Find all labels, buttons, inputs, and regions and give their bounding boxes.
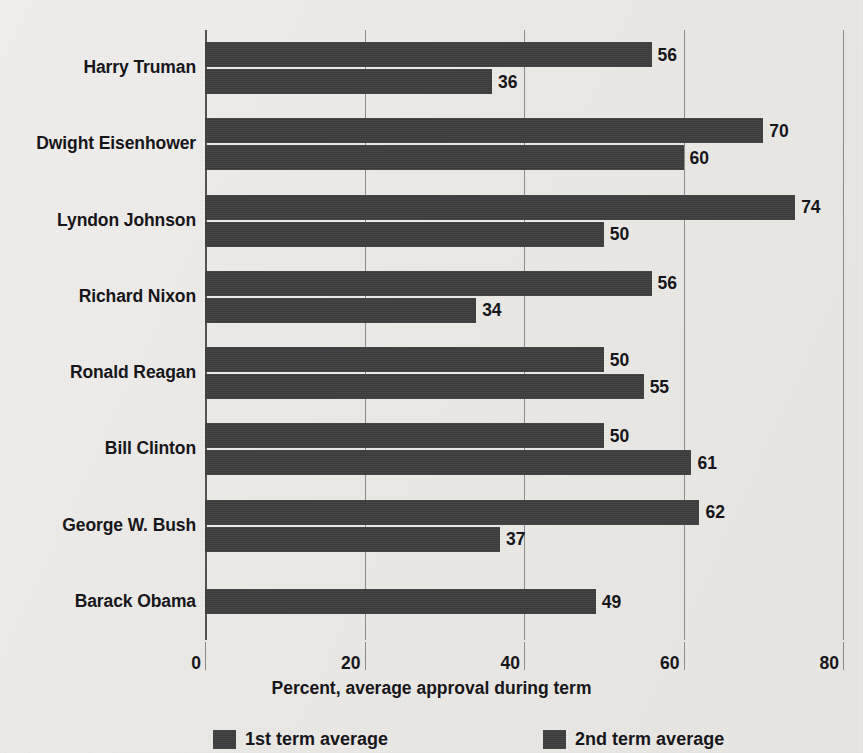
bar-group-item: 50 (205, 222, 863, 247)
bar-value-label: 36 (498, 71, 517, 92)
category-row: George W. Bush6237 (205, 488, 863, 564)
category-row: Harry Truman5636 (205, 30, 863, 106)
x-axis-tick-label: 60 (660, 653, 679, 674)
category-label: Lyndon Johnson (57, 210, 196, 231)
bar (205, 222, 604, 247)
bar (205, 145, 684, 170)
plot-area: Harry Truman5636Dwight Eisenhower7060Lyn… (205, 30, 843, 640)
category-label: Harry Truman (83, 57, 196, 78)
bar (205, 42, 652, 67)
x-axis-tick-label: 20 (341, 653, 360, 674)
bar (205, 195, 795, 220)
legend-item-1st-term: 1st term average (213, 729, 388, 750)
bar-value-label: 49 (602, 591, 621, 612)
bar-group-item: 49 (205, 589, 863, 614)
bar (205, 118, 763, 143)
bar-value-label: 37 (506, 529, 525, 550)
x-axis-tick-label: 0 (191, 653, 201, 674)
bar (205, 450, 691, 475)
category-label: George W. Bush (62, 515, 196, 536)
category-label: Ronald Reagan (70, 362, 196, 383)
x-axis-tick (524, 642, 525, 670)
bar-value-label: 62 (705, 502, 724, 523)
category-row: Bill Clinton5061 (205, 411, 863, 487)
bar-value-label: 56 (658, 273, 677, 294)
x-axis-tick (365, 642, 366, 670)
x-axis-tick (684, 642, 685, 670)
legend-swatch-icon (543, 730, 566, 749)
x-axis-tick-label: 40 (501, 653, 520, 674)
category-row: Ronald Reagan5055 (205, 335, 863, 411)
legend-label: 1st term average (245, 729, 388, 750)
x-axis-tick (843, 642, 844, 670)
x-axis-tick-label: 80 (820, 653, 839, 674)
approval-rating-bar-chart: Harry Truman5636Dwight Eisenhower7060Lyn… (0, 0, 863, 753)
x-axis-title: Percent, average approval during term (0, 678, 863, 699)
bar-group-item: 62 (205, 500, 863, 525)
bar (205, 423, 604, 448)
category-label: Barack Obama (75, 591, 196, 612)
bar-group-item: 56 (205, 271, 863, 296)
category-row: Richard Nixon5634 (205, 259, 863, 335)
category-label: Dwight Eisenhower (36, 133, 196, 154)
x-axis-tick (205, 642, 206, 670)
bar-value-label: 56 (658, 44, 677, 65)
bar (205, 298, 476, 323)
bar-value-label: 55 (650, 376, 669, 397)
bar-group-item: 61 (205, 450, 863, 475)
bar-group-item: 74 (205, 195, 863, 220)
category-row: Barack Obama49 (205, 564, 863, 640)
bar-value-label: 50 (610, 224, 629, 245)
bar-group-item: 36 (205, 69, 863, 94)
bar-group-item: 56 (205, 42, 863, 67)
bar (205, 527, 500, 552)
category-row: Lyndon Johnson7450 (205, 183, 863, 259)
bar-group-item: 34 (205, 298, 863, 323)
chart-legend: 1st term average 2nd term average (213, 729, 724, 750)
bar-group-item: 55 (205, 374, 863, 399)
bar-group-item: 70 (205, 118, 863, 143)
category-label: Richard Nixon (79, 286, 196, 307)
legend-item-2nd-term: 2nd term average (543, 729, 724, 750)
category-label: Bill Clinton (105, 438, 196, 459)
bar-value-label: 50 (610, 349, 629, 370)
legend-swatch-icon (213, 730, 236, 749)
bar-group-item: 50 (205, 347, 863, 372)
bar-group-item: 37 (205, 527, 863, 552)
bar (205, 374, 644, 399)
bar (205, 69, 492, 94)
category-row: Dwight Eisenhower7060 (205, 106, 863, 182)
bar (205, 347, 604, 372)
bar (205, 500, 699, 525)
bar (205, 589, 596, 614)
bar-value-label: 74 (801, 197, 820, 218)
bar-group-item: 60 (205, 145, 863, 170)
bar-value-label: 70 (769, 120, 788, 141)
bar-group-item: 50 (205, 423, 863, 448)
bar (205, 271, 652, 296)
bar-value-label: 34 (482, 300, 501, 321)
bar-value-label: 50 (610, 425, 629, 446)
bar-value-label: 60 (690, 147, 709, 168)
bar-value-label: 61 (697, 452, 716, 473)
legend-label: 2nd term average (575, 729, 724, 750)
